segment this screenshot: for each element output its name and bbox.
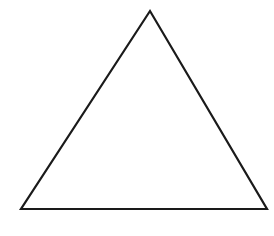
diagram-canvas bbox=[0, 0, 274, 236]
triangle-figure bbox=[0, 0, 274, 236]
triangle-shape bbox=[21, 11, 267, 209]
